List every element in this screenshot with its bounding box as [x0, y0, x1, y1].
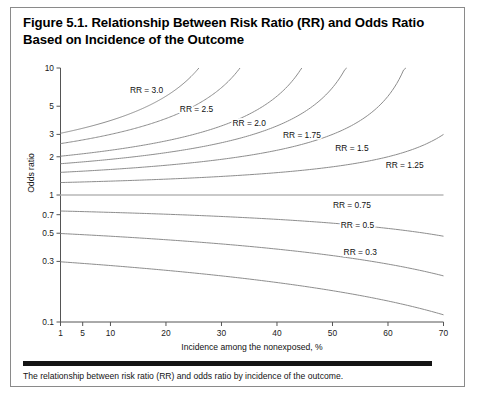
figure-page: Figure 5.1. Relationship Between Risk Ra… — [0, 0, 477, 408]
curve-label-1-25: RR = 1.25 — [386, 160, 424, 170]
x-tick-label: 50 — [328, 328, 338, 338]
figure-caption: The relationship between risk ratio (RR)… — [23, 370, 443, 382]
curve-1-75 — [61, 68, 347, 164]
chart-plot-area: 0.10.30.50.71235101510203040506070 RR = … — [0, 0, 477, 408]
curve-label-1-5: RR = 1.5 — [335, 143, 369, 153]
x-tick-label: 20 — [161, 328, 171, 338]
y-axis-title: Odds ratio — [26, 153, 36, 193]
curve-label-0-75: RR = 0.75 — [333, 200, 371, 210]
chart-curve-labels: RR = 3.0RR = 3.0RR = 2.5RR = 2.5RR = 2.0… — [130, 85, 424, 257]
curve-0-75 — [61, 211, 444, 236]
y-tick-label: 2 — [49, 152, 54, 162]
x-tick-label: 40 — [272, 328, 282, 338]
x-tick-label: 60 — [383, 328, 393, 338]
caption-rule — [23, 361, 432, 366]
y-tick-label: 0.1 — [42, 317, 54, 327]
curve-0-5 — [61, 234, 444, 276]
x-tick-label: 30 — [217, 328, 227, 338]
curve-0-3 — [61, 262, 444, 315]
curve-label-1-75: RR = 1.75 — [283, 130, 321, 140]
curve-label-2-5: RR = 2.5 — [180, 104, 214, 114]
y-tick-label: 0.3 — [42, 256, 54, 266]
chart-axes: 0.10.30.50.71235101510203040506070 — [42, 63, 448, 338]
x-tick-label: 70 — [439, 328, 449, 338]
curve-label-0-5: RR = 0.5 — [341, 220, 375, 230]
chart-svg: 0.10.30.50.71235101510203040506070 RR = … — [0, 0, 477, 408]
curve-label-2: RR = 2.0 — [233, 118, 267, 128]
x-axis-title: Incidence among the nonexposed, % — [181, 342, 323, 352]
y-tick-label: 3 — [49, 129, 54, 139]
y-tick-label: 0.5 — [42, 228, 54, 238]
x-tick-label: 1 — [58, 328, 63, 338]
y-tick-label: 1 — [49, 190, 54, 200]
x-tick-label: 5 — [80, 328, 85, 338]
chart-curves — [61, 68, 444, 315]
curve-3 — [61, 68, 199, 133]
curve-label-0-3: RR = 0.3 — [344, 247, 378, 257]
x-tick-label: 10 — [106, 328, 116, 338]
y-tick-label: 5 — [49, 101, 54, 111]
y-tick-label: 10 — [45, 63, 55, 73]
curve-label-3: RR = 3.0 — [130, 85, 164, 95]
y-tick-label: 0.7 — [42, 210, 54, 220]
